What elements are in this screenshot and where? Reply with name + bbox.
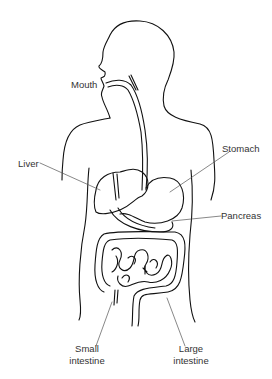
stomach-leader [170,152,229,192]
stomach [120,177,184,223]
label-stomach: Stomach [222,143,260,155]
label-pancreas: Pancreas [221,210,261,222]
left-shoulder [62,118,110,180]
liver [94,169,148,213]
digestive-system-diagram: Mouth Liver Stomach Pancreas Small intes… [0,0,272,379]
left-torso-side [79,168,89,320]
right-torso-side [189,170,196,322]
large-intestine-leader [167,298,185,346]
liver-leader [40,163,100,190]
small-intestine-leader [96,302,112,346]
pancreas-leader [172,216,221,221]
label-liver: Liver [18,158,39,170]
label-small-intestine: Small intestine [66,343,108,367]
anatomy-illustration [0,0,272,379]
label-large-intestine: Large intestine [170,343,212,367]
label-mouth: Mouth [71,79,97,91]
small-intestine [112,248,172,286]
